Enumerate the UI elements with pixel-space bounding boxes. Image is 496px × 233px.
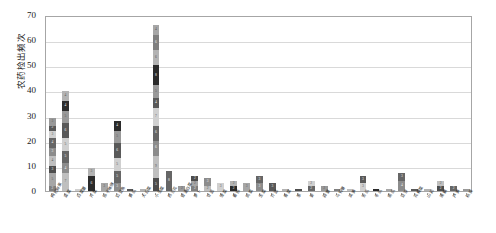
x-tick-label-20: 姜 bbox=[309, 192, 315, 198]
bar-8-segment-2: 6 bbox=[153, 141, 160, 156]
bar-19[interactable] bbox=[295, 189, 302, 192]
y-tick-70: 70 bbox=[2, 11, 36, 20]
bar-20[interactable]: 22 bbox=[308, 181, 315, 191]
bar-1-segment-5: 5 bbox=[62, 111, 69, 124]
bar-0-segment-6: 3 bbox=[49, 131, 56, 139]
bar-8-segment-8: 6 bbox=[153, 50, 160, 65]
bar-1-segment-2: 5 bbox=[62, 151, 69, 164]
y-tick-50: 50 bbox=[2, 61, 36, 70]
bar-0[interactable]: 253434323 bbox=[49, 118, 56, 191]
y-tick-20: 20 bbox=[2, 137, 36, 146]
bar-8-segment-9: 6 bbox=[153, 35, 160, 50]
bar-8-segment-5: 4 bbox=[153, 98, 160, 108]
bar-8-segment-6: 5 bbox=[153, 85, 160, 98]
bar-5-segment-5: 4 bbox=[114, 121, 121, 131]
bar-1-segment-4: 6 bbox=[62, 123, 69, 138]
bar-8[interactable]: 59667458664 bbox=[153, 25, 160, 191]
bar-5-segment-2: 5 bbox=[114, 158, 121, 171]
pesticide-detection-frequency-chart: 农药检出频次 010203040506070 25343432374556544… bbox=[0, 0, 496, 233]
bar-8-segment-4: 7 bbox=[153, 108, 160, 126]
x-axis-tick-labels: 枸杞鲜果韭菜白菜薹芹菜茄子辣椒豇豆角黄瓜大白菜小油菜西兰花普通白菜萝卜甘蓝菠菜番… bbox=[45, 193, 472, 233]
x-tick-label-19: 葱 bbox=[296, 192, 302, 198]
bar-5-segment-4: 5 bbox=[114, 131, 121, 144]
bar-20-segment-0: 2 bbox=[308, 186, 315, 191]
bar-27-segment-1: 3 bbox=[398, 173, 405, 181]
bar-3-segment-1: 3 bbox=[88, 168, 95, 176]
bar-0-segment-1: 5 bbox=[49, 173, 56, 186]
bar-0-segment-5: 4 bbox=[49, 138, 56, 148]
bar-8-segment-1: 9 bbox=[153, 156, 160, 179]
y-tick-0: 0 bbox=[2, 187, 36, 196]
bar-19-segment-0 bbox=[295, 189, 302, 192]
bar-8-segment-10: 4 bbox=[153, 25, 160, 35]
bar-0-segment-3: 4 bbox=[49, 156, 56, 166]
bar-5[interactable]: 355654 bbox=[114, 121, 121, 191]
bar-0-segment-8: 3 bbox=[49, 118, 56, 126]
bar-0-segment-4: 3 bbox=[49, 148, 56, 156]
bar-series: 2534343237455654463335565459667458664822… bbox=[46, 17, 471, 191]
bar-16-segment-1: 3 bbox=[256, 176, 263, 184]
bar-1[interactable]: 74556544 bbox=[62, 90, 69, 191]
bar-12-segment-1: 3 bbox=[204, 178, 211, 186]
bar-5-segment-3: 6 bbox=[114, 143, 121, 158]
plot-area: 2534343237455654463335565459667458664822… bbox=[45, 16, 472, 192]
y-tick-60: 60 bbox=[2, 36, 36, 45]
y-tick-40: 40 bbox=[2, 86, 36, 95]
bar-0-segment-2: 3 bbox=[49, 166, 56, 174]
bar-1-segment-7: 4 bbox=[62, 91, 69, 101]
bar-3[interactable]: 63 bbox=[88, 168, 95, 191]
bar-8-segment-7: 8 bbox=[153, 65, 160, 85]
bar-1-segment-1: 4 bbox=[62, 163, 69, 173]
y-tick-10: 10 bbox=[2, 162, 36, 171]
bar-1-segment-3: 5 bbox=[62, 138, 69, 151]
bar-24-segment-1: 3 bbox=[360, 176, 367, 184]
bar-8-segment-3: 6 bbox=[153, 126, 160, 141]
bar-1-segment-6: 4 bbox=[62, 101, 69, 111]
bar-5-segment-1: 5 bbox=[114, 171, 121, 184]
y-tick-30: 30 bbox=[2, 112, 36, 121]
